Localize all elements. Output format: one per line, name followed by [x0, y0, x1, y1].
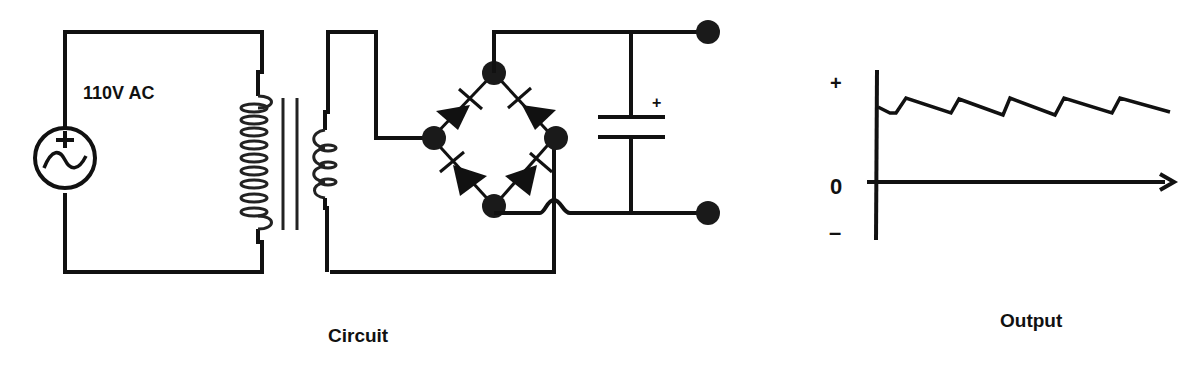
ripple-waveform: [878, 98, 1170, 115]
circuit-caption: Circuit: [328, 325, 389, 346]
output-caption: Output: [1000, 310, 1063, 331]
source-voltage-label: 110V AC: [83, 83, 154, 103]
diagram-canvas: 110V AC: [0, 0, 1202, 365]
primary-coil-icon: [241, 96, 272, 229]
ac-source-icon: [35, 128, 95, 188]
capacitor-polarity-label: +: [652, 94, 661, 111]
bridge-rectifier: [422, 61, 568, 218]
axis-label-plus: +: [830, 72, 842, 94]
secondary-coil-icon: [314, 32, 376, 272]
transformer-core-icon: [283, 98, 297, 230]
diode-icon: [436, 89, 482, 130]
output-terminal-positive: [696, 20, 720, 44]
diode-icon: [505, 153, 552, 196]
bridge-input-wires: [330, 138, 554, 272]
bridge-node-left: [422, 126, 446, 150]
capacitor-icon: +: [598, 32, 665, 213]
output-graph: + 0 –: [829, 70, 1174, 245]
bridge-node-right: [544, 126, 568, 150]
axis-label-minus: –: [829, 220, 841, 245]
y-axis: [876, 70, 877, 240]
axis-label-zero: 0: [830, 174, 842, 199]
output-terminal-negative: [696, 201, 720, 225]
